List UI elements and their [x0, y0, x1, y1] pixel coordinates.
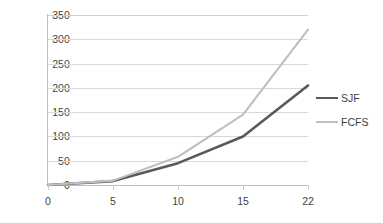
- x-tick-mark: [243, 185, 244, 190]
- x-tick-mark: [308, 185, 309, 190]
- x-tick-mark: [178, 185, 179, 190]
- legend-swatch-fcfs: [316, 121, 338, 123]
- legend-swatch-sjf: [316, 97, 338, 99]
- series-line-fcfs: [48, 30, 308, 185]
- x-tick-mark: [113, 185, 114, 190]
- legend-label-sjf: SJF: [338, 93, 360, 104]
- x-tick-label: 5: [93, 196, 133, 207]
- x-tick-label: 15: [223, 196, 263, 207]
- series-line-sjf: [48, 85, 308, 185]
- x-tick-label: 22: [288, 196, 328, 207]
- x-tick-mark: [48, 185, 49, 190]
- legend-item-fcfs[interactable]: FCFS: [316, 110, 382, 134]
- chart-legend: SJF FCFS: [316, 86, 382, 134]
- x-tick-label: 0: [28, 196, 68, 207]
- legend-label-fcfs: FCFS: [338, 117, 368, 128]
- line-chart: 050100150200250300350 05101522 SJF FCFS: [0, 0, 383, 223]
- x-tick-label: 10: [158, 196, 198, 207]
- legend-item-sjf[interactable]: SJF: [316, 86, 382, 110]
- plot-area: [48, 15, 308, 185]
- series-lines: [48, 15, 308, 185]
